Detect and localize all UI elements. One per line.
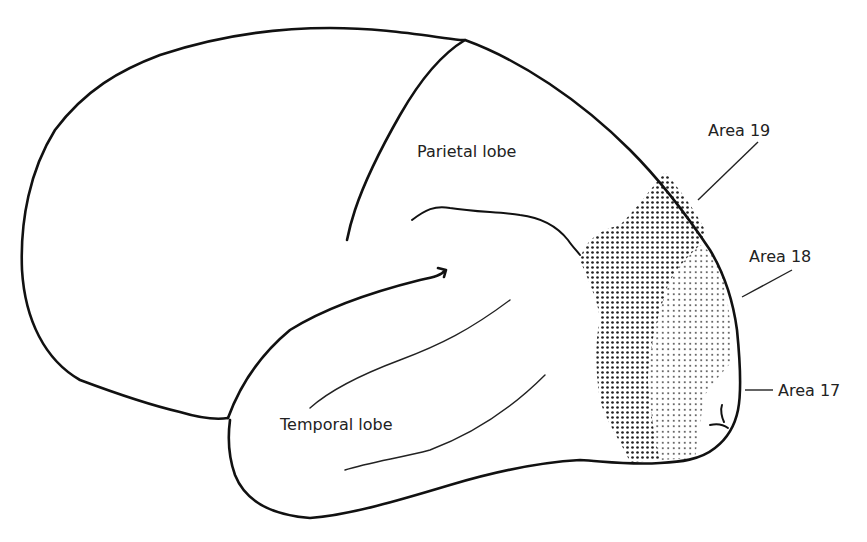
area-18-label: Area 18 bbox=[749, 247, 811, 266]
superior-temporal-sulcus bbox=[310, 300, 510, 408]
brain-diagram: Parietal lobe Temporal lobe Area 19 Area… bbox=[0, 0, 867, 542]
temporal-lobe-label: Temporal lobe bbox=[279, 415, 393, 434]
area-19-leader bbox=[698, 142, 758, 200]
lateral-fissure bbox=[412, 207, 580, 255]
central-sulcus bbox=[347, 40, 465, 240]
area-18-leader bbox=[742, 270, 792, 297]
temporal-lobe-contour bbox=[228, 268, 446, 418]
parietal-lobe-label: Parietal lobe bbox=[417, 142, 516, 161]
area-17-label: Area 17 bbox=[778, 381, 840, 400]
calcarine-notch bbox=[710, 405, 728, 428]
area-19-label: Area 19 bbox=[708, 121, 770, 140]
